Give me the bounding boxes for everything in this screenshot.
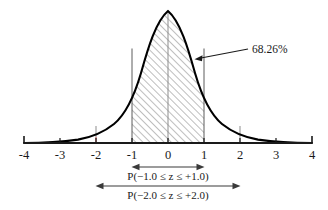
tick-label-4: 4 [309,148,316,162]
tick-label--3: -3 [55,148,65,162]
tick-label--2: -2 [91,148,101,162]
callout-leader-line [201,49,248,58]
normal-distribution-figure: -4 -3 -2 -1 0 1 2 3 4 68.26% P(−1.0 ≤ z … [0,0,328,210]
tick-label-3: 3 [273,148,279,162]
tick-label-0: 0 [165,148,171,162]
tick-label-2: 2 [237,148,243,162]
tick-label-1: 1 [201,148,207,162]
outer-arrow-right-head-icon [233,183,241,189]
distribution-chart-svg: -4 -3 -2 -1 0 1 2 3 4 68.26% P(−1.0 ≤ z … [0,0,328,210]
percent-callout-label: 68.26% [252,43,288,55]
outer-interval-label: P(−2.0 ≤ z ≤ +2.0) [127,189,209,202]
outer-arrow-left-head-icon [96,183,104,189]
inner-interval-label: P(−1.0 ≤ z ≤ +1.0) [127,170,209,183]
tick-label--1: -1 [127,148,137,162]
callout-arrowhead-icon [195,55,203,61]
tick-label--4: -4 [19,148,30,162]
